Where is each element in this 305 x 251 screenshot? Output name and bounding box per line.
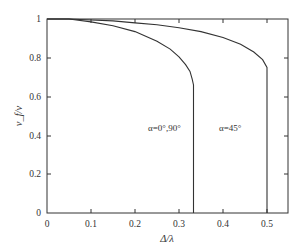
x-axis-title: Δ/λ bbox=[159, 233, 174, 244]
x-tick-label: 0.5 bbox=[261, 219, 273, 229]
y-tick-label: 0.6 bbox=[29, 92, 41, 102]
x-axis-ticks bbox=[91, 19, 267, 213]
x-tick-label: 0.3 bbox=[173, 219, 185, 229]
annotation-alpha-0-90: α=0°,90° bbox=[148, 123, 181, 133]
y-tick-label: 0.4 bbox=[29, 131, 41, 141]
x-tick-label: 0.4 bbox=[217, 219, 229, 229]
x-tick-label: 0 bbox=[45, 219, 50, 229]
y-tick-label: 1 bbox=[36, 14, 41, 24]
y-axis-ticks bbox=[47, 58, 288, 174]
line-chart: 0 0.1 0.2 0.3 0.4 0.5 0 0.2 0.4 0.6 0.8 … bbox=[0, 0, 305, 251]
x-tick-labels: 0 0.1 0.2 0.3 0.4 0.5 bbox=[45, 219, 274, 229]
x-tick-label: 0.1 bbox=[85, 219, 97, 229]
annotation-alpha-45: α=45° bbox=[219, 123, 242, 133]
series-alpha-0-90-line bbox=[47, 19, 194, 213]
y-tick-label: 0.8 bbox=[29, 53, 41, 63]
y-tick-labels: 0 0.2 0.4 0.6 0.8 1 bbox=[29, 14, 41, 218]
series-alpha-45-line bbox=[47, 19, 267, 213]
x-tick-label: 0.2 bbox=[129, 219, 141, 229]
y-axis-title: v_f/v bbox=[13, 105, 24, 126]
y-tick-label: 0 bbox=[36, 208, 41, 218]
y-tick-label: 0.2 bbox=[29, 169, 41, 179]
